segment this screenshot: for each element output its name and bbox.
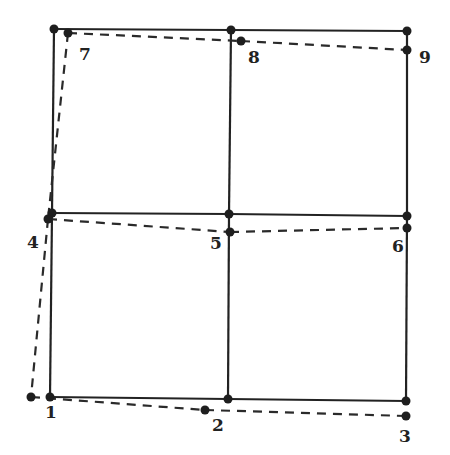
solid-edge xyxy=(228,399,406,401)
solid-edge xyxy=(50,213,52,397)
deformed-node-5 xyxy=(226,228,235,237)
original-node xyxy=(225,210,234,219)
original-node xyxy=(50,25,59,34)
dashed-edge-8-9 xyxy=(241,41,407,50)
diagram-svg: 123456789 xyxy=(0,0,450,455)
deformed-mesh-dashed xyxy=(31,33,407,416)
deformed-node-9 xyxy=(403,46,412,55)
solid-edge xyxy=(52,213,229,214)
deformed-node-7 xyxy=(64,29,73,38)
solid-edge xyxy=(231,30,407,31)
dashed-edge-4-5 xyxy=(48,219,230,232)
mesh-deformation-diagram: 123456789 xyxy=(0,0,450,455)
node-label-3: 3 xyxy=(399,426,411,446)
node-label-2: 2 xyxy=(212,415,224,435)
node-label-4: 4 xyxy=(27,232,39,252)
deformed-node-6 xyxy=(403,224,412,233)
deformed-node-2 xyxy=(201,406,210,415)
node-label-6: 6 xyxy=(392,236,404,256)
dashed-edge-7-4 xyxy=(48,33,68,219)
deformed-node-8 xyxy=(237,37,246,46)
deformed-mesh-nodes xyxy=(27,29,412,421)
original-node xyxy=(403,212,412,221)
solid-edge xyxy=(406,216,407,401)
node-label-8: 8 xyxy=(248,47,260,67)
original-node xyxy=(227,26,236,35)
solid-edge xyxy=(228,214,229,399)
original-node xyxy=(224,395,233,404)
solid-edge xyxy=(54,29,231,30)
dashed-edge-7-8 xyxy=(68,33,241,41)
solid-edge xyxy=(50,397,228,399)
original-node xyxy=(402,397,411,406)
solid-edge xyxy=(229,214,407,216)
dashed-edge-5-6 xyxy=(230,228,407,232)
dashed-edge-2-3 xyxy=(205,410,406,416)
node-label-7: 7 xyxy=(79,44,91,64)
node-label-1: 1 xyxy=(45,402,57,422)
solid-edge xyxy=(52,29,54,213)
deformed-node-1 xyxy=(27,393,36,402)
deformed-node-3 xyxy=(402,412,411,421)
node-label-5: 5 xyxy=(210,233,222,253)
deformed-node-4 xyxy=(44,215,53,224)
solid-edge xyxy=(229,30,231,214)
original-node xyxy=(46,393,55,402)
original-node xyxy=(403,27,412,36)
node-label-9: 9 xyxy=(419,47,431,67)
